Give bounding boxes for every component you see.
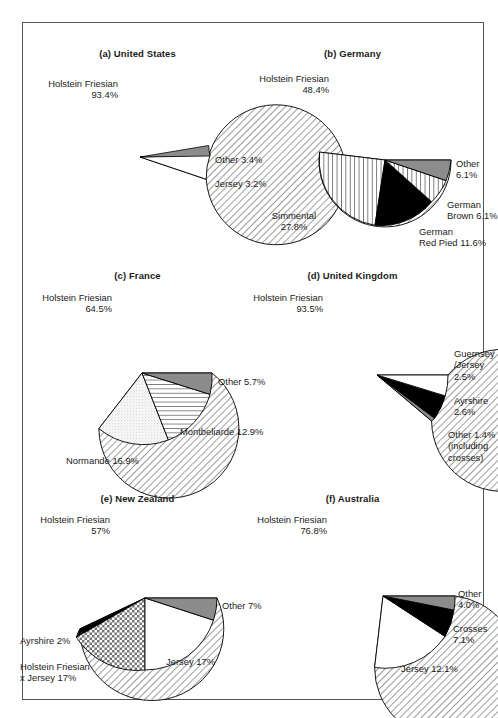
label-france-normande: Normande 16.9% [66,455,139,466]
label-australia-holstein-friesian: Holstein Friesian 76.8% [215,514,327,537]
label-germany-other: Other 6.1% [456,158,479,181]
label-germany-german-red-pied: German Red Pied 11.6% [419,226,486,249]
panel-title-australia: (f) Australia [237,493,468,504]
label-uk-holstein-friesian: Holstein Friesian 93.5% [211,292,323,315]
label-uk-guernsey-jersey: Guernsey /Jersey 2.5% [454,348,495,382]
label-germany-simmental: Simmental 27.8% [247,210,341,233]
label-australia-crosses: Crosses 7.1% [453,623,487,646]
label-germany-holstein-friesian: Holstein Friesian 48.4% [219,73,329,96]
panel-new-zealand: (e) New Zealand Holstein Friesian 57% Ot… [22,475,253,700]
pie-united-states [22,30,253,262]
panel-united-kingdom: (d) United Kingdom Holstein Friesian 93.… [253,252,484,487]
panel-australia: (f) Australia Holstein Friesian 76.8% Ot… [253,475,484,700]
label-australia-other: Other 4.0% [458,588,481,611]
panel-title-united-states: (a) United States [22,48,253,59]
label-nz-ayrshire: Ayrshire 2% [20,635,70,646]
panel-title-germany: (b) Germany [237,48,468,59]
panel-title-new-zealand: (e) New Zealand [22,493,253,504]
panel-france: (c) France Holstein Friesian 64.5% Other… [22,252,253,487]
label-us-holstein-friesian: Holstein Friesian 93.4% [8,78,118,101]
pie-france [22,252,253,487]
label-uk-other: Other 1.4% (including crosses) [448,429,495,463]
label-nz-holstein-friesian-x-jersey: Holstein Friesian x Jersey 17% [20,661,90,684]
label-uk-ayrshire: Ayrshire 2.6% [454,395,488,418]
panel-germany: (b) Germany Holstein Friesian 48.4% Othe… [253,30,484,262]
panel-title-france: (c) France [22,270,253,281]
panel-united-states: (a) United States Holstein Friesian 93.4… [22,30,253,262]
label-nz-holstein-friesian: Holstein Friesian 57% [0,514,110,537]
label-france-montbeliarde: Montbeliarde 12.9% [180,426,263,437]
label-australia-jersey: Jersey 12.1% [401,663,458,674]
label-nz-jersey: Jersey 17% [166,656,215,667]
slice-other-wedge [140,146,210,158]
slice-jersey [140,155,210,179]
label-germany-german-brown: German Brown 6.1% [447,199,498,222]
label-france-holstein-friesian: Holstein Friesian 64.5% [0,292,112,315]
panel-title-united-kingdom: (d) United Kingdom [237,270,468,281]
